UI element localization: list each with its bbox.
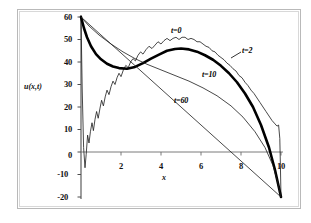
ytick-label-10: 10 <box>46 125 72 133</box>
xtick-label-2: 2 <box>113 162 129 170</box>
ytick-label-neg10: -10 <box>42 170 68 178</box>
xtick-label-10: 10 <box>273 162 289 170</box>
ytick-label-30: 30 <box>46 80 72 88</box>
ytick-label-50: 50 <box>46 35 72 43</box>
ytick-label-neg20: -20 <box>42 193 68 201</box>
curve-label-t0: t=0 <box>171 27 181 35</box>
curve-label-t2: t=2 <box>242 47 252 55</box>
xtick-label-6: 6 <box>193 162 209 170</box>
ytick-label-20: 20 <box>46 103 72 111</box>
xtick-label-8: 8 <box>233 162 249 170</box>
x-axis-title: x <box>162 174 166 182</box>
y-axis-title: u(x,t) <box>24 83 42 91</box>
ytick-label-0: 0 <box>46 151 72 159</box>
annotation-leader-t2 <box>231 52 241 58</box>
curve-t-60 <box>81 17 281 197</box>
curve-label-t10: t=10 <box>202 71 216 79</box>
figure-container: 60 50 40 30 20 10 0 -10 -20 2 4 6 8 10 u… <box>0 0 311 223</box>
chart-plot-area <box>0 0 311 223</box>
ytick-label-60: 60 <box>46 13 72 21</box>
curve-label-t60: t=60 <box>174 97 188 105</box>
ytick-label-40: 40 <box>46 58 72 66</box>
curves-layer <box>81 17 281 197</box>
xtick-label-4: 4 <box>153 162 169 170</box>
